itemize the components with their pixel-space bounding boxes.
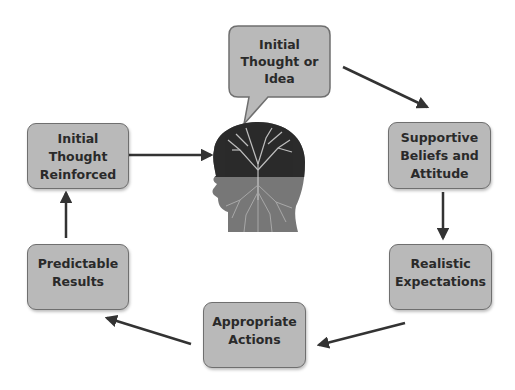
node-initial-thought: Initial Thought or Idea — [229, 26, 330, 97]
node-label-line: Actions — [212, 331, 297, 349]
node-appropriate-actions: Appropriate Actions — [203, 302, 306, 368]
node-realistic-expectations: Realistic Expectations — [389, 244, 492, 310]
node-label-line: Idea — [264, 70, 295, 87]
node-initial-thought-reinforced: Initial Thought Reinforced — [27, 123, 129, 189]
node-predictable-results: Predictable Results — [27, 244, 129, 310]
node-label-line: Realistic — [395, 255, 486, 273]
head-tree-icon — [200, 120, 310, 238]
node-label-line: Supportive — [400, 129, 479, 147]
node-label-line: Attitude — [400, 165, 479, 183]
node-label-line: Results — [38, 273, 119, 291]
node-label-line: Initial — [259, 36, 300, 53]
node-label-line: Beliefs and — [400, 147, 479, 165]
node-label-line: Reinforced — [40, 166, 116, 184]
node-label-line: Appropriate — [212, 313, 297, 331]
node-label-line: Expectations — [395, 273, 486, 291]
arrow-thought-to-beliefs — [343, 67, 427, 107]
node-label-line: Initial — [40, 130, 116, 148]
node-label-line: Predictable — [38, 255, 119, 273]
arrow-expectations-to-actions — [319, 323, 405, 345]
node-supportive-beliefs: Supportive Beliefs and Attitude — [388, 122, 491, 189]
arrow-actions-to-results — [107, 318, 191, 344]
node-label-line: Thought — [40, 148, 116, 166]
node-label-line: Thought or — [241, 53, 319, 70]
